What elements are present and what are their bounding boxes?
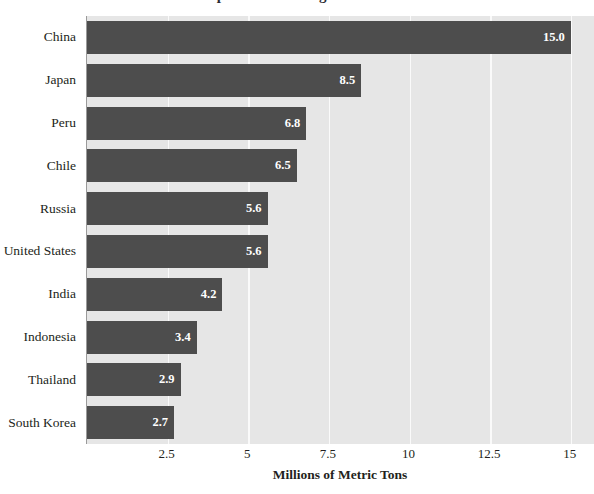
category-label: Japan [45,72,76,88]
bar-value-label: 8.5 [340,64,356,97]
category-label: Indonesia [24,329,76,345]
bar-value-label: 5.6 [246,192,262,225]
bar[interactable]: 2.7 [87,406,174,439]
clipped-chart-title: Top Fish Producing Countries [0,0,594,9]
bar[interactable]: 15.0 [87,21,571,54]
x-axis-ticks: 2.557.51012.515 [0,446,594,466]
plot-area: 15.08.56.86.55.65.64.23.42.92.7 [86,16,594,444]
category-label: China [44,29,76,45]
x-tick-label: 12.5 [459,446,519,462]
category-axis: ChinaJapanPeruChileRussiaUnited StatesIn… [0,16,82,444]
category-label: Thailand [28,372,76,388]
bar[interactable]: 4.2 [87,278,222,311]
bar[interactable]: 3.4 [87,321,197,354]
category-label: Russia [40,201,76,217]
x-tick-label: 5 [217,446,277,462]
bar[interactable]: 6.8 [87,107,306,140]
bar-value-label: 6.5 [275,149,291,182]
category-label: South Korea [8,415,76,431]
clipped-chart-title-text: Top Fish Producing Countries [0,0,594,4]
bar-value-label: 4.2 [201,278,217,311]
bar-value-label: 2.7 [152,406,168,439]
bar-value-label: 15.0 [543,21,565,54]
bar-value-label: 3.4 [175,321,191,354]
gridline [571,16,573,444]
gridline [490,16,492,444]
bar[interactable]: 2.9 [87,363,181,396]
category-label: India [48,286,76,302]
category-label: United States [4,243,76,259]
x-tick-label: 15 [540,446,594,462]
bar-value-label: 6.8 [285,107,301,140]
category-label: Peru [51,115,76,131]
x-tick-label: 2.5 [137,446,197,462]
x-tick-label: 7.5 [298,446,358,462]
bar-value-label: 5.6 [246,235,262,268]
bar[interactable]: 8.5 [87,64,361,97]
bar[interactable]: 5.6 [87,235,268,268]
bar-value-label: 2.9 [159,363,175,396]
x-tick-label: 10 [379,446,439,462]
bar[interactable]: 5.6 [87,192,268,225]
gridline [410,16,412,444]
bar-chart: ChinaJapanPeruChileRussiaUnited StatesIn… [0,9,594,494]
x-axis-title: Millions of Metric Tons [86,467,594,483]
bar[interactable]: 6.5 [87,149,297,182]
category-label: Chile [47,158,76,174]
